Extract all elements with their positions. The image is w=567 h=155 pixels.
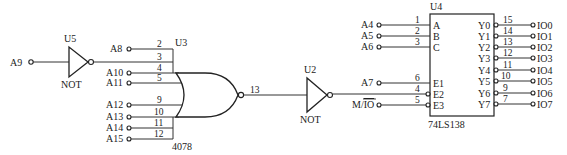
io5-terminal — [531, 79, 535, 83]
io6-label: IO6 — [537, 88, 553, 99]
u5-triangle — [69, 47, 88, 77]
a12-label: A12 — [106, 99, 123, 110]
pin-10: 10 — [154, 107, 164, 117]
io0-label: IO0 — [537, 20, 553, 31]
a8-terminal — [127, 47, 131, 51]
a11-label: A11 — [106, 77, 123, 88]
u4-decoder: U4 74LS138 A4 1 A A5 2 B A6 3 C A7 6 E1 … — [352, 1, 553, 130]
u3-or-body — [176, 73, 238, 117]
y3-bubble — [494, 56, 498, 60]
y7-bubble — [494, 102, 498, 106]
u4-out-y0: Y0 — [478, 20, 490, 31]
mio-terminal — [377, 103, 381, 107]
a4-label: A4 — [361, 19, 373, 30]
y4-bubble — [494, 68, 498, 72]
y2-bubble — [494, 45, 498, 49]
pin-5: 5 — [157, 73, 162, 83]
pin-11: 11 — [154, 118, 163, 128]
a5-terminal — [377, 34, 381, 38]
u4-in-e2: E2 — [433, 89, 444, 100]
y0-bubble — [494, 23, 498, 27]
u4-in-e3: E3 — [433, 100, 444, 111]
y5-bubble — [494, 79, 498, 83]
u4-pin-12: 12 — [503, 48, 513, 58]
mio-label-m: M/IO — [352, 99, 374, 110]
u4-pin-1: 1 — [415, 15, 420, 25]
io2-terminal — [531, 45, 535, 49]
io4-terminal — [531, 68, 535, 72]
u4-part: 74LS138 — [428, 119, 465, 130]
u5-type: NOT — [61, 79, 82, 90]
a4-terminal — [377, 23, 381, 27]
mio-label-io: IO — [364, 99, 375, 110]
u4-pin-6: 6 — [415, 73, 420, 83]
u4-out-y6: Y6 — [478, 88, 490, 99]
y1-bubble — [494, 34, 498, 38]
u4-in-b: B — [433, 31, 440, 42]
u4-pin-5: 5 — [415, 95, 420, 105]
a8-label: A8 — [110, 43, 122, 54]
io7-label: IO7 — [537, 99, 553, 110]
u4-out-y7: Y7 — [478, 99, 490, 110]
a15-label: A15 — [106, 133, 123, 144]
a14-terminal — [127, 126, 131, 130]
a9-terminal — [29, 60, 33, 64]
u5-bubble — [89, 60, 94, 65]
u4-ref: U4 — [430, 1, 442, 12]
e2-bubble — [426, 92, 430, 96]
u4-pin-2: 2 — [415, 26, 420, 36]
a11-terminal — [127, 81, 131, 85]
pin-9: 9 — [157, 95, 162, 105]
u4-pin-4: 4 — [415, 84, 420, 94]
io1-label: IO1 — [537, 31, 553, 42]
u2-not-gate: U2 NOT — [300, 64, 427, 125]
a6-terminal — [377, 45, 381, 49]
io7-terminal — [531, 102, 535, 106]
u4-pin-15: 15 — [503, 15, 513, 25]
pin-12: 12 — [154, 129, 164, 139]
u4-in-a: A — [433, 20, 441, 31]
u4-out-y4: Y4 — [478, 65, 490, 76]
u4-out-y2: Y2 — [478, 42, 490, 53]
u3-ref: U3 — [175, 37, 187, 48]
e3-bubble — [426, 103, 430, 107]
a9-label: A9 — [10, 57, 22, 68]
io4-label: IO4 — [537, 65, 553, 76]
pin-4: 4 — [157, 63, 162, 73]
u4-pin-10: 10 — [501, 71, 511, 81]
io3-label: IO3 — [537, 53, 553, 64]
a6-label: A6 — [361, 41, 373, 52]
u4-out-y3: Y3 — [478, 53, 490, 64]
io3-terminal — [531, 56, 535, 60]
a7-terminal — [377, 81, 381, 85]
a13-terminal — [127, 115, 131, 119]
u4-out-y1: Y1 — [478, 31, 490, 42]
u4-pin-14: 14 — [503, 26, 513, 36]
u2-type: NOT — [300, 114, 321, 125]
io5-label: IO5 — [537, 76, 553, 87]
a7-label: A7 — [361, 77, 373, 88]
a13-label: A13 — [106, 111, 123, 122]
u2-triangle — [307, 78, 327, 112]
u5-ref: U5 — [64, 33, 76, 44]
u3-nor-gate: U3 4078 A8 2 3 A10 4 A11 5 A12 9 A13 10 … — [106, 37, 307, 152]
pin-2: 2 — [157, 39, 162, 49]
u4-pin-9: 9 — [503, 83, 508, 93]
a14-label: A14 — [106, 122, 123, 133]
a15-terminal — [127, 137, 131, 141]
a10-terminal — [127, 71, 131, 75]
circuit-diagram: A9 U5 NOT U3 4078 A8 2 3 A10 4 A11 5 A12… — [0, 0, 567, 155]
u4-pin-3: 3 — [415, 37, 420, 47]
u3-part: 4078 — [172, 141, 192, 152]
u3-bubble — [238, 92, 243, 97]
u4-pin-7: 7 — [503, 94, 508, 104]
io1-terminal — [531, 34, 535, 38]
io2-label: IO2 — [537, 42, 553, 53]
io6-terminal — [531, 91, 535, 95]
a12-terminal — [127, 103, 131, 107]
a5-label: A5 — [361, 30, 373, 41]
u4-in-c: C — [433, 42, 440, 53]
u2-bubble — [328, 93, 333, 98]
pin-3: 3 — [157, 52, 162, 62]
u4-pin-13: 13 — [503, 37, 513, 47]
